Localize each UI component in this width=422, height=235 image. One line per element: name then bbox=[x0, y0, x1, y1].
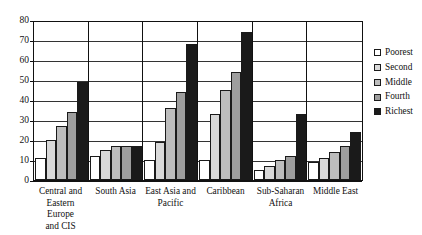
legend-swatch-icon bbox=[374, 49, 381, 56]
bar bbox=[67, 112, 78, 180]
y-tick-label-50: 50 bbox=[20, 76, 30, 86]
bar bbox=[340, 146, 351, 180]
bar bbox=[77, 82, 88, 180]
category-axis-labels: Central andEastern Europeand CISSouth As… bbox=[33, 186, 363, 232]
legend-item: Second bbox=[374, 63, 413, 72]
bar bbox=[254, 170, 265, 180]
bar bbox=[241, 32, 252, 180]
legend-label: Fourth bbox=[385, 92, 410, 101]
legend-item: Poorest bbox=[374, 48, 413, 57]
bar bbox=[176, 92, 187, 180]
legend-swatch-icon bbox=[374, 79, 381, 86]
category-label: Central andEastern Europeand CIS bbox=[33, 186, 88, 232]
category-label: Sub-SaharanAfrica bbox=[253, 186, 308, 232]
legend-label: Poorest bbox=[385, 48, 413, 57]
y-tick-label-80: 80 bbox=[20, 16, 30, 26]
bar bbox=[319, 158, 330, 180]
bar bbox=[100, 150, 111, 180]
bar bbox=[220, 90, 231, 180]
legend-label: Richest bbox=[385, 107, 413, 116]
legend-label: Second bbox=[385, 63, 412, 72]
bar bbox=[285, 156, 296, 180]
bar-group bbox=[143, 21, 198, 180]
y-tick-label-10: 10 bbox=[20, 156, 30, 166]
bar bbox=[186, 44, 197, 180]
bar bbox=[155, 142, 166, 180]
plot-area: 01020304050607080 bbox=[33, 21, 363, 181]
legend-item: Middle bbox=[374, 78, 413, 87]
bar bbox=[231, 72, 242, 180]
legend-label: Middle bbox=[385, 78, 412, 87]
category-label: South Asia bbox=[88, 186, 143, 232]
bar bbox=[165, 108, 176, 180]
bar bbox=[111, 146, 122, 180]
bar-group bbox=[89, 21, 144, 180]
y-tick-label-60: 60 bbox=[20, 56, 30, 66]
legend-swatch-icon bbox=[374, 108, 381, 115]
category-label: Caribbean bbox=[198, 186, 253, 232]
legend-swatch-icon bbox=[374, 94, 381, 101]
bar-group bbox=[307, 21, 362, 180]
bar-group bbox=[34, 21, 89, 180]
bar bbox=[350, 132, 361, 180]
category-label: East Asia andPacific bbox=[143, 186, 198, 232]
bar bbox=[275, 160, 286, 180]
bar-group bbox=[198, 21, 253, 180]
bar bbox=[199, 160, 210, 180]
y-tick-label-0: 0 bbox=[24, 176, 29, 186]
y-tick-label-30: 30 bbox=[20, 116, 30, 126]
bar bbox=[121, 146, 132, 180]
bar bbox=[90, 156, 101, 180]
legend-item: Richest bbox=[374, 107, 413, 116]
bar bbox=[296, 114, 307, 180]
y-tick-label-40: 40 bbox=[20, 96, 30, 106]
legend: PoorestSecondMiddleFourthRichest bbox=[374, 48, 413, 116]
legend-item: Fourth bbox=[374, 92, 413, 101]
y-tick-0 bbox=[30, 181, 34, 182]
bar bbox=[329, 152, 340, 180]
legend-swatch-icon bbox=[374, 64, 381, 71]
bar bbox=[132, 146, 143, 180]
bar bbox=[144, 160, 155, 180]
category-label: Middle East bbox=[308, 186, 363, 232]
y-tick-label-20: 20 bbox=[20, 136, 30, 146]
bar bbox=[46, 140, 57, 180]
bar-groups bbox=[34, 21, 362, 180]
bar-chart: 01020304050607080 Central andEastern Eur… bbox=[0, 0, 422, 235]
bar bbox=[56, 126, 67, 180]
y-tick-label-70: 70 bbox=[20, 36, 30, 46]
bar bbox=[308, 162, 319, 180]
bar-group bbox=[253, 21, 308, 180]
bar bbox=[35, 158, 46, 180]
gridline-0 bbox=[34, 181, 362, 182]
bar bbox=[264, 166, 275, 180]
bar bbox=[210, 114, 221, 180]
